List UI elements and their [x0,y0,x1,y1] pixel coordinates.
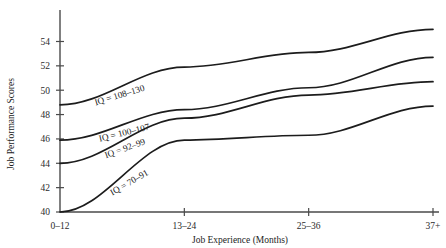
y-tick-label: 52 [41,61,51,71]
x-axis: 0–1213–2425–3637+ [51,208,441,231]
y-axis-title: Job Performance Scores [6,78,16,170]
y-tick-label: 46 [41,134,51,144]
y-tick-label: 40 [41,207,51,217]
x-tick-label: 25–36 [297,221,321,231]
y-axis: 4042444648505254 [41,10,65,217]
x-tick-label: 37+ [426,221,441,231]
line-chart: 4042444648505254 0–1213–2425–3637+ IQ = … [0,0,446,248]
x-tick-label: 0–12 [51,221,70,231]
x-axis-title: Job Experience (Months) [192,235,288,246]
y-tick-label: 44 [41,159,51,169]
x-tick-label: 13–24 [172,221,196,231]
series-line-4 [60,106,433,212]
y-tick-label: 48 [41,110,51,120]
y-tick-label: 42 [41,183,51,193]
chart-canvas: 4042444648505254 0–1213–2425–3637+ IQ = … [0,0,446,248]
y-tick-label: 50 [41,86,51,96]
y-tick-label: 54 [41,37,51,47]
